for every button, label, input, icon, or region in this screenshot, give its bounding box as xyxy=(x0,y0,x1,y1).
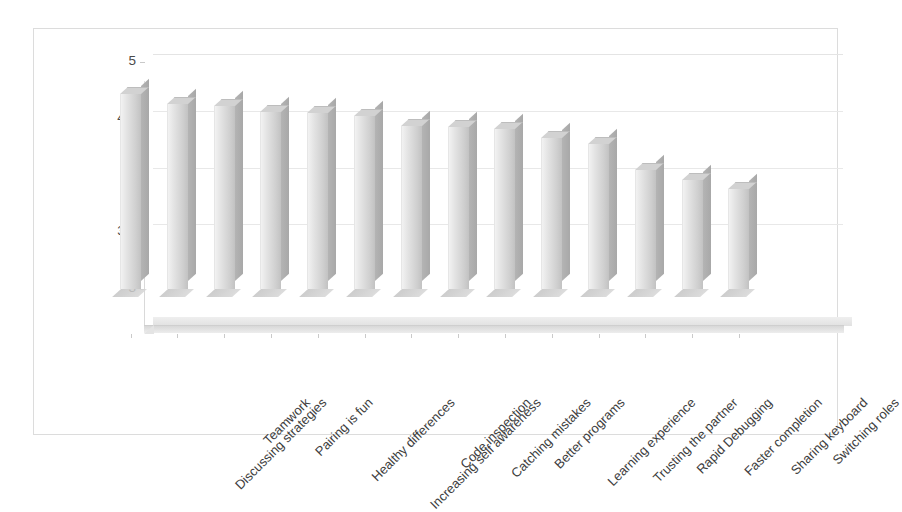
bar-front-face xyxy=(120,94,141,289)
x-axis-tick-mark xyxy=(411,334,412,338)
bar-shadow xyxy=(159,289,194,297)
x-axis-tick-mark xyxy=(458,334,459,338)
bar-column[interactable] xyxy=(682,172,713,289)
x-axis-tick-mark xyxy=(224,334,225,338)
bar-side-face xyxy=(609,129,617,281)
bar-front-face xyxy=(448,127,469,289)
bar-front-face xyxy=(494,129,515,289)
bar-column[interactable] xyxy=(120,86,151,289)
bar-side-face xyxy=(328,98,336,281)
y-axis-tick-label: 5 xyxy=(96,53,136,68)
bar-column[interactable] xyxy=(354,108,385,289)
bar-front-face xyxy=(401,126,422,289)
bar-shadow xyxy=(487,289,522,297)
bar-side-face xyxy=(422,110,430,281)
bar-front-face xyxy=(307,113,328,289)
bar-shadow xyxy=(393,289,428,297)
x-axis-tick-mark xyxy=(365,334,366,338)
bar-shadow xyxy=(721,289,756,297)
bar-column[interactable] xyxy=(728,181,759,289)
x-axis-tick-mark xyxy=(505,334,506,338)
bar-side-face xyxy=(141,79,149,281)
bar-side-face xyxy=(235,91,243,281)
gridline xyxy=(153,111,843,112)
bar-shadow xyxy=(206,289,241,297)
bar-column[interactable] xyxy=(401,118,432,289)
bar-shadow xyxy=(299,289,334,297)
bar-side-face xyxy=(375,101,383,281)
bar-column[interactable] xyxy=(588,136,619,289)
x-axis-tick-mark xyxy=(271,334,272,338)
bar-shadow xyxy=(253,289,288,297)
chart-floor-front-face xyxy=(144,325,844,333)
bar-side-face xyxy=(469,111,477,281)
bar-column[interactable] xyxy=(167,96,198,289)
bar-column[interactable] xyxy=(448,119,479,289)
x-axis-tick-mark xyxy=(318,334,319,338)
chart-frame-border: 33.544.55 Discussing strategiesTeamworkP… xyxy=(33,28,838,435)
bar-front-face xyxy=(260,112,281,289)
bar-column[interactable] xyxy=(307,105,338,289)
x-axis-tick-mark xyxy=(177,334,178,338)
bar-shadow xyxy=(580,289,615,297)
x-axis-category-label: Healthy differences xyxy=(369,395,458,484)
bar-front-face xyxy=(167,104,188,289)
bar-front-face xyxy=(214,106,235,289)
bar-side-face xyxy=(515,114,523,281)
bar-shadow xyxy=(346,289,381,297)
chart-floor-3d xyxy=(144,317,852,334)
x-axis-tick-mark xyxy=(552,334,553,338)
bar-front-face xyxy=(728,189,749,289)
bar-front-face xyxy=(541,138,562,289)
bar-column[interactable] xyxy=(214,98,245,289)
bar-shadow xyxy=(674,289,709,297)
bar-side-face xyxy=(188,89,196,281)
bar-column[interactable] xyxy=(635,162,666,289)
bar-column[interactable] xyxy=(541,130,572,289)
bar-side-face xyxy=(656,155,664,281)
x-axis-tick-mark xyxy=(692,334,693,338)
x-axis-tick-mark xyxy=(599,334,600,338)
bar-side-face xyxy=(281,97,289,281)
bar-front-face xyxy=(635,170,656,289)
x-axis-tick-mark xyxy=(645,334,646,338)
bar-side-face xyxy=(562,123,570,281)
y-axis-tick-mark xyxy=(140,62,145,63)
bar-front-face xyxy=(588,144,609,289)
bar-shadow xyxy=(440,289,475,297)
bar-shadow xyxy=(627,289,662,297)
bar-column[interactable] xyxy=(260,104,291,289)
bar-column[interactable] xyxy=(494,121,525,289)
bar-shadow xyxy=(533,289,568,297)
bar-front-face xyxy=(682,180,703,289)
bar-side-face xyxy=(703,165,711,281)
bar-front-face xyxy=(354,116,375,289)
x-axis-tick-mark xyxy=(739,334,740,338)
x-axis-category-labels: Discussing strategiesTeamworkPairing is … xyxy=(152,395,872,495)
x-axis-tick-mark xyxy=(131,334,132,338)
bar-side-face xyxy=(749,174,757,281)
gridline xyxy=(153,54,843,55)
